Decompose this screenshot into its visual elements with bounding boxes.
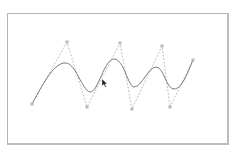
control-point-handle[interactable] [192, 59, 195, 62]
control-points [31, 41, 195, 111]
control-point-handle[interactable] [169, 106, 172, 109]
control-polygon [32, 42, 193, 109]
control-point-handle[interactable] [31, 103, 34, 106]
spline-diagram[interactable] [0, 0, 236, 151]
mouse-pointer-icon [102, 79, 107, 87]
control-point-handle[interactable] [86, 106, 89, 109]
control-point-handle[interactable] [131, 108, 134, 111]
control-point-handle[interactable] [161, 45, 164, 48]
control-point-handle[interactable] [119, 42, 122, 45]
control-point-handle[interactable] [66, 41, 69, 44]
